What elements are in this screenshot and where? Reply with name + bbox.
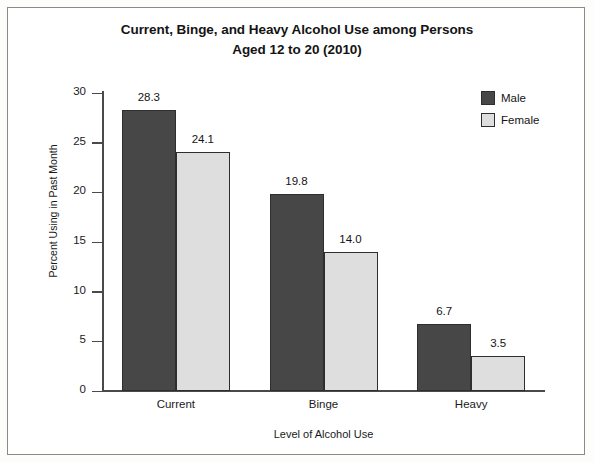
bar-value-label: 24.1: [168, 133, 238, 145]
bar-value-label: 14.0: [316, 233, 386, 245]
y-axis-tick: [92, 242, 102, 244]
chart-title-line-1: Current, Binge, and Heavy Alcohol Use am…: [60, 20, 534, 40]
y-axis-tick-label: 30: [48, 85, 86, 97]
legend-item-female: Female: [481, 110, 571, 130]
bar-value-label: 19.8: [262, 175, 332, 187]
chart-title: Current, Binge, and Heavy Alcohol Use am…: [60, 20, 534, 59]
x-axis-label-heavy: Heavy: [397, 398, 545, 410]
bar-binge-female: [324, 252, 378, 391]
bar-heavy-female: [471, 356, 525, 391]
y-axis-tick: [92, 192, 102, 194]
bar-current-male: [122, 110, 176, 391]
y-axis-tick: [92, 391, 102, 393]
legend-swatch-male: [481, 91, 495, 105]
y-axis-tick: [92, 291, 102, 293]
bar-binge-male: [270, 194, 324, 391]
bar-value-label: 3.5: [463, 337, 533, 349]
y-axis-tick: [92, 341, 102, 343]
legend-label-female: Female: [501, 114, 539, 126]
legend-swatch-female: [481, 113, 495, 127]
y-axis-title: Percent Using in Past Month: [47, 131, 59, 291]
legend-item-male: Male: [481, 88, 571, 108]
x-axis-label-binge: Binge: [250, 398, 398, 410]
bar-current-female: [176, 152, 230, 391]
bar-value-label: 6.7: [409, 305, 479, 317]
chart-legend: MaleFemale: [481, 88, 571, 132]
chart-figure: Current, Binge, and Heavy Alcohol Use am…: [0, 0, 594, 463]
x-axis-title: Level of Alcohol Use: [102, 428, 545, 440]
legend-label-male: Male: [501, 92, 526, 104]
y-axis-tick-label: 5: [48, 333, 86, 345]
x-axis-label-current: Current: [102, 398, 250, 410]
plot-area: 28.324.119.814.06.73.5: [102, 93, 545, 391]
y-axis-tick: [92, 93, 102, 95]
bar-value-label: 28.3: [114, 91, 184, 103]
y-axis-tick-label: 0: [48, 383, 86, 395]
y-axis-tick: [92, 142, 102, 144]
chart-title-line-2: Aged 12 to 20 (2010): [60, 40, 534, 60]
bar-heavy-male: [417, 324, 471, 391]
